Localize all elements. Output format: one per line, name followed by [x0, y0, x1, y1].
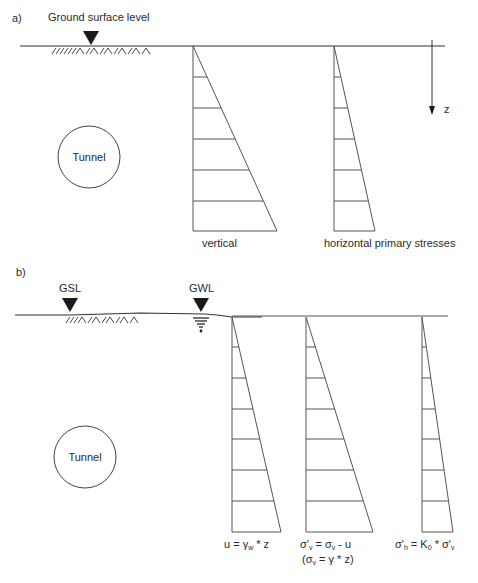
horizontal-stress-label: horizontal primary stresses: [324, 237, 456, 249]
ground-surface-level-label: Ground surface level: [48, 11, 150, 23]
tunnel-label-b: Tunnel: [68, 451, 101, 463]
water-table-icon: [193, 318, 209, 332]
panel-a: a) Ground surface level z Tunnel: [12, 11, 456, 249]
pore-water-formula: u = γw * z: [224, 538, 269, 551]
vertical-stress-label: vertical: [202, 237, 237, 249]
gsl-marker-icon: [62, 298, 78, 312]
ground-surface-line-b: [15, 313, 262, 317]
ground-level-marker-icon: [83, 31, 99, 45]
gwl-marker-icon: [193, 298, 209, 312]
depth-axis-label: z: [444, 103, 450, 115]
stress-diagram-canvas: a) Ground surface level z Tunnel: [0, 0, 478, 583]
tunnel-label-a: Tunnel: [72, 151, 105, 163]
vertical-stress-diagram: [193, 46, 277, 231]
gsl-label: GSL: [59, 282, 81, 294]
panel-b: b) GSL GWL Tunnel: [15, 266, 455, 566]
effective-vertical-stress-diagram: [306, 317, 373, 532]
gwl-label: GWL: [189, 282, 214, 294]
effective-vertical-formula: σ'v = σv - u: [300, 538, 351, 551]
soil-hatching-icon: [66, 317, 138, 323]
effective-horizontal-stress-diagram: [422, 317, 453, 532]
soil-hatching-icon: [52, 48, 150, 54]
horizontal-stress-diagram: [334, 46, 375, 231]
depth-arrow-icon: [429, 40, 435, 115]
pore-water-pressure-diagram: [232, 317, 281, 532]
panel-b-label: b): [16, 266, 26, 278]
panel-a-label: a): [12, 12, 22, 24]
total-vertical-formula: (σv = γ * z): [302, 553, 354, 566]
effective-horizontal-formula: σ'h = K0 * σ'v: [395, 538, 455, 551]
